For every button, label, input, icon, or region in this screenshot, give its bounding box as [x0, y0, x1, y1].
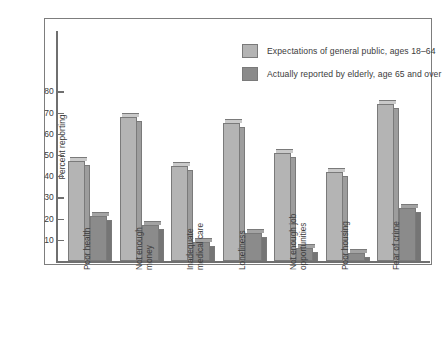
bar-dark-0-face: [90, 216, 107, 261]
legend-label-expectations: Expectations of general public, ages 18–…: [267, 46, 436, 56]
bar-light-6-top: [379, 100, 396, 104]
y-tick-80: [57, 91, 64, 92]
bar-light-5-top: [328, 168, 345, 172]
bar-dark-0: [90, 216, 107, 261]
y-tick-label-40: 40: [32, 171, 54, 181]
legend-item-1: Actually reported by elderly, age 65 and…: [242, 67, 441, 81]
bar-dark-3-face: [245, 233, 262, 261]
category-label-2-line-0: Inadequate: [185, 228, 195, 270]
category-label-4-line-1: opportunities: [298, 222, 308, 270]
category-label-3: Loneliness: [237, 230, 247, 270]
y-tick-40: [57, 176, 64, 177]
bar-light-4-top: [276, 149, 293, 153]
legend: Expectations of general public, ages 18–…: [242, 44, 441, 90]
y-tick-50: [57, 155, 64, 156]
y-tick-label-60: 60: [32, 129, 54, 139]
bar-dark-2-side: [210, 246, 215, 261]
category-label-1-line-0: Not enough: [134, 227, 144, 270]
bar-dark-5-side: [365, 257, 370, 261]
category-label-1-line-1: money: [144, 245, 154, 270]
bar-dark-3-top: [247, 229, 264, 233]
y-tick-label-50: 50: [32, 150, 54, 160]
y-tick-60: [57, 134, 64, 135]
category-label-5: Poor housing: [340, 221, 350, 270]
bar-dark-3-side: [262, 237, 267, 261]
category-label-0: Poor health: [82, 228, 92, 270]
bar-dark-6-top: [401, 204, 418, 208]
bar-dark-0-side: [107, 220, 112, 261]
y-tick-label-10: 10: [32, 235, 54, 245]
bar-light-0-top: [70, 157, 87, 161]
plot-area: Percent reporting 1020304050607080 Poor …: [44, 18, 432, 265]
bar-dark-5-top: [350, 249, 367, 253]
category-label-4-line-0: Not enough job: [288, 214, 298, 270]
bar-dark-1-top: [144, 221, 161, 225]
bar-light-1-top: [122, 113, 139, 117]
legend-item-0: Expectations of general public, ages 18–…: [242, 44, 441, 58]
legend-swatch-expectations: [242, 44, 258, 58]
y-tick-label-20: 20: [32, 214, 54, 224]
y-tick-label-80: 80: [32, 86, 54, 96]
bar-dark-5-face: [348, 253, 365, 261]
bar-dark-6-face: [399, 208, 416, 261]
y-tick-70: [57, 113, 64, 114]
category-label-6: Fear of crime: [391, 221, 401, 270]
y-tick-20: [57, 219, 64, 220]
y-tick-10: [57, 240, 64, 241]
bar-dark-0-top: [92, 212, 109, 216]
bar-dark-3: [245, 233, 262, 261]
y-tick-label-30: 30: [32, 192, 54, 202]
legend-label-actual: Actually reported by elderly, age 65 and…: [267, 69, 441, 79]
bar-dark-6-side: [416, 212, 421, 261]
legend-swatch-actual: [242, 67, 258, 81]
bar-light-2-top: [173, 162, 190, 166]
y-tick-label-70: 70: [32, 108, 54, 118]
category-label-2-line-1: medical care: [195, 223, 205, 270]
y-tick-30: [57, 197, 64, 198]
bar-dark-4-side: [313, 252, 318, 261]
bar-dark-1-side: [159, 229, 164, 261]
bar-dark-5: [348, 253, 365, 261]
bar-dark-6: [399, 208, 416, 261]
bar-chart: Percent reporting 1020304050607080 Poor …: [0, 0, 447, 348]
bar-light-3-top: [225, 119, 242, 123]
